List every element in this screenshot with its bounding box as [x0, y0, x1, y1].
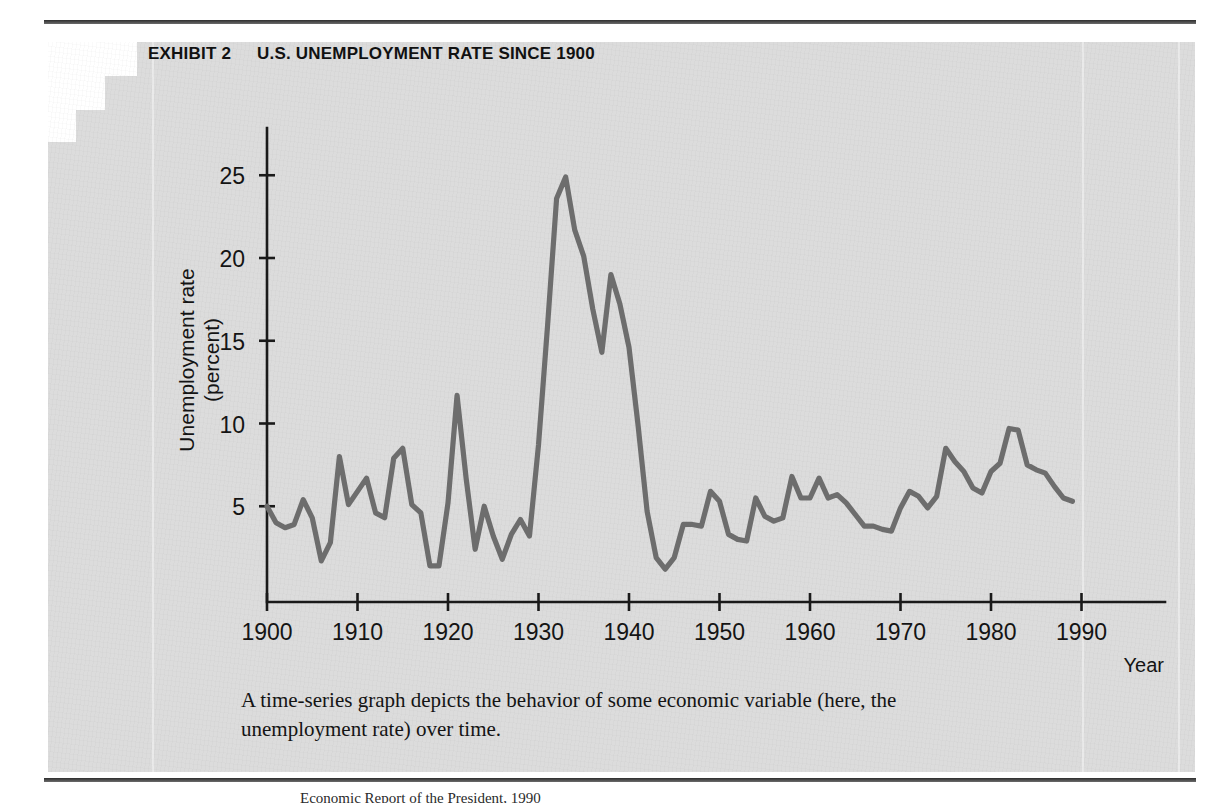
time-series-chart: 510152025 190019101920193019401950196019… [0, 0, 1221, 803]
x-tick-label: 1980 [965, 619, 1016, 645]
exhibit-page: EXHIBIT 2U.S. UNEMPLOYMENT RATE SINCE 19… [0, 0, 1221, 803]
y-tick-label: 10 [219, 412, 245, 438]
x-axis-title: Year [1124, 654, 1165, 676]
x-axis-tick-labels: 1900191019201930194019501960197019801990 [241, 619, 1107, 645]
x-axis-title-text: Year [1124, 654, 1165, 676]
x-tick-label: 1970 [875, 619, 926, 645]
exhibit-caption: A time-series graph depicts the behavior… [241, 686, 941, 744]
chart-axes [259, 128, 1165, 611]
unemployment-line [267, 177, 1072, 569]
y-axis-tick-labels: 510152025 [219, 163, 245, 520]
x-tick-label: 1940 [603, 619, 654, 645]
x-tick-label: 1920 [422, 619, 473, 645]
x-tick-label: 1910 [332, 619, 383, 645]
x-tick-label: 1960 [784, 619, 835, 645]
x-tick-label: 1900 [241, 619, 292, 645]
y-tick-label: 25 [219, 163, 245, 189]
x-tick-label: 1950 [694, 619, 745, 645]
y-tick-label: 20 [219, 246, 245, 272]
x-tick-label: 1930 [513, 619, 564, 645]
bottom-rule [44, 778, 1196, 782]
x-tick-label: 1990 [1056, 619, 1107, 645]
y-axis-title: Unemployment rate(percent) [175, 268, 223, 451]
y-axis-title-text: Unemployment rate(percent) [175, 268, 223, 451]
y-tick-label: 15 [219, 329, 245, 355]
source-note: Economic Report of the President, 1990 [300, 790, 1060, 803]
y-tick-label: 5 [232, 494, 245, 520]
unemployment-series-path [267, 177, 1072, 569]
